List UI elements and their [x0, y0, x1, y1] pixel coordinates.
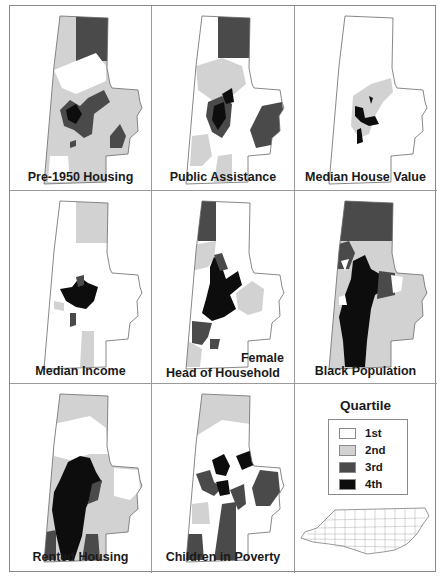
- panel-female-head-of-household: Female Head of Household: [152, 191, 294, 384]
- legend-item-2nd: 2nd: [339, 443, 385, 457]
- panel-median-house-value: Median House Value: [295, 6, 436, 190]
- county-map: [10, 6, 151, 190]
- panel-label: Median House Value: [295, 170, 436, 184]
- legend-label: 1st: [365, 427, 382, 439]
- nc-inset-map: [295, 502, 436, 562]
- panel-children-in-poverty: Children in Poverty: [152, 384, 294, 572]
- panel-median-income: Median Income: [10, 191, 151, 384]
- legend-label: 4th: [365, 478, 382, 490]
- panel-label-line1: Female: [241, 351, 284, 366]
- legend-label: 3rd: [365, 461, 383, 473]
- county-map: [295, 191, 436, 375]
- county-map: [152, 6, 294, 190]
- swatch-1st: [339, 428, 356, 439]
- panel-label: Public Assistance: [152, 170, 294, 184]
- panel-label: Rented Housing: [10, 550, 151, 564]
- legend-item-3rd: 3rd: [339, 460, 383, 474]
- panel-black-population: Black Population: [295, 191, 436, 384]
- legend-title: Quartile: [295, 398, 436, 413]
- swatch-4th: [339, 479, 356, 490]
- legend-panel: Quartile 1st 2nd 3rd 4th: [295, 384, 436, 572]
- legend-item-4th: 4th: [339, 477, 382, 491]
- panel-label: Children in Poverty: [152, 550, 294, 564]
- county-map: [10, 191, 151, 375]
- panel-label: Pre-1950 Housing: [10, 170, 151, 184]
- legend-item-1st: 1st: [339, 426, 382, 440]
- legend-label: 2nd: [365, 444, 385, 456]
- swatch-2nd: [339, 445, 356, 456]
- panel-pre-1950-housing: Pre-1950 Housing: [10, 6, 151, 190]
- county-map: [295, 6, 436, 190]
- panel-label-line2: Head of Household: [152, 366, 294, 380]
- panel-rented-housing: Rented Housing: [10, 384, 151, 572]
- county-map: [10, 384, 151, 568]
- panel-label: Median Income: [10, 364, 151, 378]
- panel-public-assistance: Public Assistance: [152, 6, 294, 190]
- swatch-3rd: [339, 462, 356, 473]
- legend-box: 1st 2nd 3rd 4th: [328, 419, 408, 495]
- county-map: [152, 191, 294, 375]
- county-map: [152, 384, 294, 568]
- panel-label: Black Population: [295, 364, 436, 378]
